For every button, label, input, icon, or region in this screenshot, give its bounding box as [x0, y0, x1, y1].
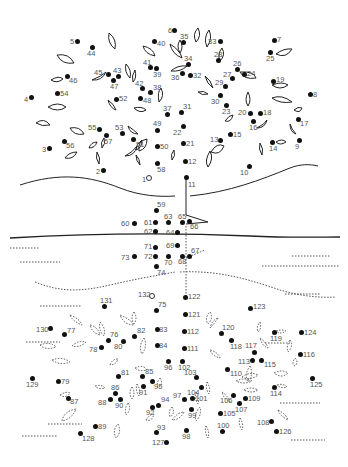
puzzle-dot[interactable]	[182, 346, 187, 351]
puzzle-dot[interactable]	[258, 111, 263, 116]
puzzle-dot[interactable]	[175, 243, 180, 248]
puzzle-dot[interactable]	[153, 220, 158, 225]
dot-number-label: 13	[210, 136, 218, 144]
puzzle-dot[interactable]	[56, 379, 61, 384]
dot-number-label: 38	[153, 84, 161, 92]
puzzle-dot[interactable]	[298, 352, 303, 357]
puzzle-dot[interactable]	[272, 38, 277, 43]
dot-number-label: 7	[277, 36, 281, 44]
dot-number-label: 52	[119, 95, 127, 103]
puzzle-dot[interactable]	[184, 175, 189, 180]
puzzle-dot[interactable]	[299, 330, 304, 335]
puzzle-dot[interactable]	[252, 350, 257, 355]
puzzle-dot[interactable]	[132, 334, 137, 339]
puzzle-dot[interactable]	[101, 168, 106, 173]
dot-number-label: 96	[164, 364, 172, 372]
dot-number-label: 18	[263, 109, 271, 117]
puzzle-dot[interactable]	[152, 39, 157, 44]
dot-number-label: 3	[42, 146, 46, 154]
puzzle-dot[interactable]	[181, 124, 186, 129]
puzzle-dot[interactable]	[274, 429, 279, 434]
puzzle-dot[interactable]	[97, 127, 102, 132]
puzzle-dot[interactable]	[156, 403, 161, 408]
puzzle-dot[interactable]	[250, 358, 255, 363]
dot-number-label: 129	[26, 381, 39, 389]
puzzle-dot[interactable]	[153, 254, 158, 259]
dot-number-label: 40	[157, 40, 165, 48]
dot-number-label: 63	[164, 213, 172, 221]
dot-number-label: 46	[69, 77, 77, 85]
puzzle-dot[interactable]	[29, 95, 34, 100]
puzzle-dot[interactable]	[155, 128, 160, 133]
puzzle-dot[interactable]	[172, 28, 177, 33]
puzzle-dot[interactable]	[180, 71, 185, 76]
puzzle-dot[interactable]	[175, 230, 180, 235]
puzzle-dot[interactable]	[183, 312, 188, 317]
dot-number-label: 91	[139, 389, 147, 397]
puzzle-dot[interactable]	[116, 374, 121, 379]
puzzle-dot[interactable]	[155, 144, 160, 149]
puzzle-dot[interactable]	[182, 329, 187, 334]
dot-number-label: 23	[222, 108, 230, 116]
dot-number-label: 45	[94, 69, 102, 77]
dot-number-label: 103	[184, 369, 197, 377]
puzzle-dot[interactable]	[183, 295, 188, 300]
puzzle-dot[interactable]	[153, 245, 158, 250]
puzzle-dot[interactable]	[93, 424, 98, 429]
puzzle-dot[interactable]	[242, 72, 247, 77]
dot-number-label: 78	[89, 346, 97, 354]
puzzle-dot[interactable]	[181, 141, 186, 146]
puzzle-dot[interactable]	[182, 397, 187, 402]
puzzle-dot[interactable]	[243, 396, 248, 401]
dot-number-label: 60	[121, 220, 129, 228]
dot-number-label: 126	[279, 428, 292, 436]
puzzle-dot[interactable]	[188, 73, 193, 78]
dot-number-label: 84	[159, 342, 167, 350]
puzzle-dot[interactable]	[47, 146, 52, 151]
puzzle-dot[interactable]	[218, 411, 223, 416]
leaf-outlines	[36, 28, 302, 167]
puzzle-dot[interactable]	[248, 111, 253, 116]
dot-number-label: 62	[144, 228, 152, 236]
dot-number-label: 57	[104, 138, 112, 146]
puzzle-dot[interactable]	[55, 91, 60, 96]
dot-number-label: 26	[233, 60, 241, 68]
puzzle-dot[interactable]	[228, 132, 233, 137]
puzzle-dot[interactable]	[132, 221, 137, 226]
puzzle-dot[interactable]	[225, 367, 230, 372]
puzzle-dot[interactable]	[153, 229, 158, 234]
dot-number-label: 43	[113, 67, 121, 75]
dot-number-label: 51	[136, 141, 144, 149]
puzzle-dot[interactable]	[106, 72, 111, 77]
dot-number-label: 12	[188, 158, 196, 166]
puzzle-dot[interactable]	[138, 96, 143, 101]
puzzle-dot[interactable]	[99, 345, 104, 350]
dot-number-label: 117	[245, 342, 257, 350]
puzzle-dot[interactable]	[75, 39, 80, 44]
dot-number-label: 36	[171, 74, 179, 82]
dot-number-label: 79	[61, 378, 69, 386]
dot-number-label: 124	[304, 329, 317, 337]
puzzle-dot[interactable]	[308, 92, 313, 97]
dot-number-label: 32	[193, 72, 201, 80]
dot-number-label: 24	[247, 70, 255, 78]
dot-number-label: 37	[163, 105, 171, 113]
puzzle-dot[interactable]	[271, 79, 276, 84]
puzzle-dot[interactable]	[259, 358, 264, 363]
puzzle-dot[interactable]	[183, 159, 188, 164]
puzzle-dot[interactable]	[146, 175, 152, 181]
puzzle-dot[interactable]	[218, 39, 223, 44]
puzzle-dot[interactable]	[148, 90, 153, 95]
puzzle-dot[interactable]	[140, 374, 145, 379]
puzzle-dot[interactable]	[248, 306, 253, 311]
dot-number-label: 115	[264, 361, 276, 369]
puzzle-dot[interactable]	[114, 97, 119, 102]
puzzle-dot[interactable]	[62, 332, 67, 337]
dot-number-label: 35	[180, 33, 188, 41]
dot-number-label: 104	[187, 389, 200, 397]
dot-number-label: 59	[157, 201, 165, 209]
puzzle-dot[interactable]	[108, 397, 113, 402]
puzzle-dot[interactable]	[131, 137, 136, 142]
puzzle-dot[interactable]	[132, 254, 137, 259]
dot-number-label: 53	[115, 124, 123, 132]
